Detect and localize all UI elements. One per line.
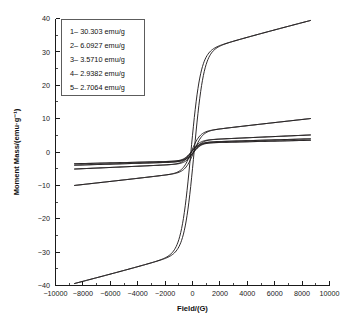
legend-entry-1: 1– 30.303 emu/g [70, 27, 125, 36]
y-tick-label: −20 [38, 214, 50, 223]
y-axis-title: Moment Mass/(emu·g⁻¹) [12, 108, 21, 195]
x-tick-label: 0 [191, 289, 195, 298]
x-tick-label: 10000 [320, 289, 340, 298]
y-tick-label: 10 [42, 114, 50, 123]
hysteresis-chart-figure: −10000−8000−6000−4000−200002000400060008… [0, 0, 346, 333]
x-axis-title: Field/(G) [177, 304, 208, 313]
legend-entry-3: 3– 3.5710 emu/g [70, 55, 125, 64]
x-tick-label: −4000 [128, 289, 148, 298]
chart-background [0, 0, 346, 333]
x-tick-label: −10000 [43, 289, 67, 298]
legend-box: 1– 30.303 emu/g2– 6.0927 emu/g3– 3.5710 … [61, 20, 144, 96]
y-tick-label: 20 [42, 81, 50, 90]
y-tick-label: −40 [38, 281, 50, 290]
x-tick-label: −6000 [100, 289, 120, 298]
x-tick-label: −8000 [73, 289, 93, 298]
y-tick-label: 30 [42, 48, 50, 57]
x-tick-label: 2000 [212, 289, 228, 298]
x-tick-label: 4000 [239, 289, 255, 298]
y-tick-label: −10 [38, 181, 50, 190]
y-tick-label: −30 [38, 248, 50, 257]
x-tick-label: −2000 [155, 289, 175, 298]
legend-entry-4: 4– 2.9382 emu/g [70, 69, 125, 78]
y-tick-label: 0 [46, 148, 50, 157]
y-tick-label: 40 [42, 14, 50, 23]
x-tick-label: 6000 [267, 289, 283, 298]
x-tick-label: 8000 [294, 289, 310, 298]
chart-canvas: −10000−8000−6000−4000−200002000400060008… [0, 0, 346, 333]
legend-entry-2: 2– 6.0927 emu/g [70, 41, 125, 50]
legend-entry-5: 5– 2.7064 emu/g [70, 83, 125, 92]
